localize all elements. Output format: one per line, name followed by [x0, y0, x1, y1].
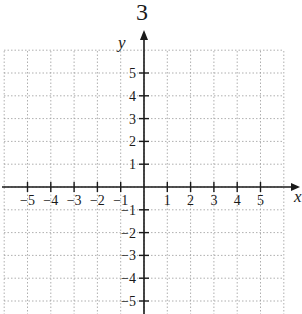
x-tick-label: 3 — [210, 193, 217, 208]
x-tick-label: 2 — [187, 193, 194, 208]
y-tick-label: −2 — [121, 226, 136, 241]
y-tick-label: −1 — [121, 203, 136, 218]
x-tick-label: −2 — [90, 193, 105, 208]
y-tick-label: −3 — [121, 248, 136, 263]
y-tick-label: 2 — [129, 134, 136, 149]
y-tick-label: 5 — [129, 66, 136, 81]
x-axis-label: x — [293, 187, 302, 206]
x-tick-label: 5 — [257, 193, 264, 208]
x-tick-label: 1 — [164, 193, 171, 208]
y-tick-label: 3 — [129, 112, 136, 127]
x-tick-label: −3 — [67, 193, 82, 208]
y-axis-arrow-icon — [140, 30, 148, 40]
y-tick-label: 1 — [129, 157, 136, 172]
y-axis-label: y — [116, 33, 126, 52]
header-fragment-number: 3 — [136, 0, 148, 25]
x-tick-label: −5 — [20, 193, 35, 208]
coordinate-plane: −5−4−3−2−11234554321−1−2−3−4−5 3 y x — [0, 0, 302, 314]
y-tick-label: −4 — [121, 271, 136, 286]
y-tick-label: −5 — [121, 294, 136, 309]
y-tick-label: 4 — [129, 89, 136, 104]
x-tick-label: −4 — [43, 193, 58, 208]
x-tick-label: 4 — [234, 193, 241, 208]
